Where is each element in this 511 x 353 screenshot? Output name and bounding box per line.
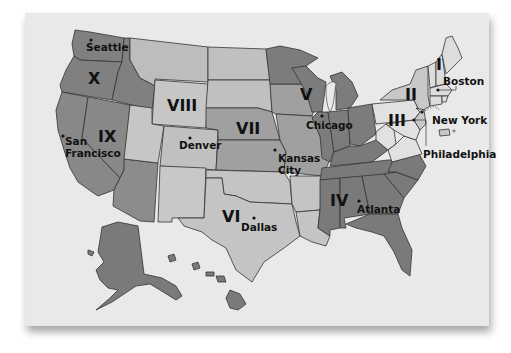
city-label-san-francisco-1: San (65, 135, 87, 147)
virgin-islands (453, 130, 455, 132)
region-label-iv: IV (330, 191, 349, 210)
city-label-philadelphia: Philadelphia (423, 148, 496, 160)
region-label-vii: VII (236, 119, 260, 138)
city-label-dallas: Dallas (241, 221, 277, 233)
hawaii-kauai (192, 262, 200, 270)
alaska (88, 222, 182, 310)
city-label-new-york: New York (432, 114, 488, 126)
region-label-ix: IX (98, 127, 117, 146)
city-label-boston: Boston (443, 75, 484, 87)
state-connecticut (430, 96, 442, 106)
state-north-dakota (208, 47, 270, 80)
city-label-kansas-city-1: Kansas (278, 152, 320, 164)
city-marker-chicago (320, 114, 323, 117)
state-south-dakota (206, 80, 272, 112)
region-label-x: X (88, 69, 101, 88)
region-label-v: V (300, 85, 313, 104)
region-label-ii: II (405, 85, 417, 104)
state-alaska (96, 222, 182, 310)
hawaii-big-island (226, 290, 246, 310)
city-label-denver: Denver (179, 139, 222, 151)
hawaii-oahu (206, 272, 214, 276)
state-arkansas (290, 176, 324, 212)
state-maine (442, 36, 462, 74)
region-label-i: I (436, 55, 442, 74)
city-label-san-francisco-2: Francisco (65, 147, 121, 159)
state-montana (130, 38, 208, 86)
state-vermont (428, 62, 436, 88)
lake-michigan (326, 82, 336, 112)
city-marker-kansas-city (273, 148, 276, 151)
city-label-seattle: Seattle (86, 41, 129, 53)
state-rhode-island (442, 96, 448, 102)
state-new-mexico (158, 166, 206, 222)
region-label-viii: VIII (167, 96, 197, 115)
region-label-vi: VI (222, 207, 240, 226)
state-florida (346, 214, 412, 276)
alaska-island (88, 250, 94, 256)
city-label-chicago: Chicago (306, 119, 353, 131)
alaska-island-2 (168, 254, 176, 262)
region-label-iii: III (388, 111, 406, 130)
puerto-rico (439, 129, 450, 136)
city-label-atlanta: Atlanta (357, 203, 400, 215)
city-marker-dallas (252, 216, 255, 219)
region-i (428, 36, 462, 106)
us-federal-regions-map: X IX VIII VII VI V IV III II I Seattle S… (0, 0, 511, 353)
state-kansas (216, 140, 286, 172)
city-label-kansas-city-2: City (278, 164, 301, 176)
hawaii-maui (216, 276, 226, 282)
